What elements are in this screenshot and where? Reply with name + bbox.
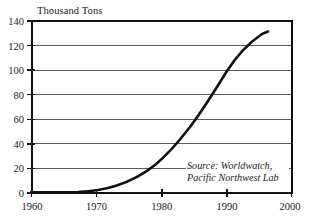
y-tick-label-100: 100 [8,65,24,76]
y-tick-label-80: 80 [14,90,25,101]
x-tick-label-1960: 1960 [22,201,43,212]
x-tick-label-1970: 1970 [86,201,107,212]
x-tick-label-1980: 1980 [151,201,172,212]
x-tick-label-2000: 2000 [280,201,301,212]
line-chart: 140 120 100 80 60 40 20 0 1960 1970 1980… [0,0,318,224]
source-note-line1: Source: Worldwatch, [187,160,272,171]
chart-background [0,0,318,224]
chart-container: 140 120 100 80 60 40 20 0 1960 1970 1980… [0,0,318,224]
x-tick-label-1990: 1990 [216,201,237,212]
y-axis-title: Thousand Tons [37,5,102,16]
source-note: Source: Worldwatch, Pacific Northwest La… [186,160,279,184]
y-tick-label-20: 20 [14,163,25,174]
source-note-line2: Pacific Northwest Lab [186,172,279,183]
y-tick-label-120: 120 [8,41,24,52]
y-tick-label-40: 40 [14,139,25,150]
y-tick-label-0: 0 [19,188,24,199]
y-tick-label-140: 140 [8,16,24,27]
y-tick-label-60: 60 [14,114,25,125]
